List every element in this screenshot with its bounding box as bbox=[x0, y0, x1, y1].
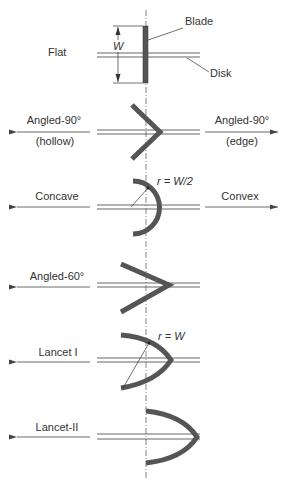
lancet-1-label: Lancet I bbox=[38, 346, 77, 358]
curved-row: r = W/2 Concave Convex bbox=[17, 175, 278, 234]
blade-callout: Blade bbox=[185, 15, 213, 27]
angled-60-label: Angled-60° bbox=[30, 270, 85, 282]
lancet-1-blade-shape bbox=[121, 335, 171, 388]
angled-60-row: Angled-60° bbox=[17, 264, 200, 312]
radius-half-label: r = W/2 bbox=[157, 175, 193, 187]
blade-shapes-diagram: Flat W Blade Disk Angled-90° (hollow) An… bbox=[0, 0, 289, 483]
lancet-2-label: Lancet-II bbox=[36, 421, 79, 433]
radius-line bbox=[131, 188, 148, 207]
angled-90-edge-sublabel: (edge) bbox=[226, 135, 258, 147]
angled-90-hollow-sublabel: (hollow) bbox=[36, 135, 75, 147]
angled-90-hollow-label: Angled-90° bbox=[27, 114, 82, 126]
radius-point bbox=[147, 187, 150, 190]
concave-label: Concave bbox=[35, 190, 78, 202]
lancet-2-row: Lancet-II bbox=[17, 411, 200, 463]
radius-full-label: r = W bbox=[158, 330, 186, 342]
blade-leader-line bbox=[148, 28, 183, 40]
disk-leader-line bbox=[187, 58, 209, 72]
radius-point bbox=[148, 342, 151, 345]
flat-blade-shape bbox=[143, 26, 148, 83]
angled-90-edge-label: Angled-90° bbox=[215, 114, 270, 126]
lancet-1-row: r = W Lancet I bbox=[17, 330, 200, 388]
angled-60-blade-shape bbox=[121, 264, 169, 312]
angled-90-row: Angled-90° (hollow) Angled-90° (edge) bbox=[17, 105, 278, 159]
lancet-2-blade-shape bbox=[146, 411, 197, 463]
disk-callout: Disk bbox=[210, 67, 232, 79]
convex-label: Convex bbox=[221, 190, 259, 202]
width-label: W bbox=[113, 40, 125, 52]
flat-blade-row: Flat W Blade Disk bbox=[48, 15, 232, 83]
flat-label: Flat bbox=[48, 46, 66, 58]
